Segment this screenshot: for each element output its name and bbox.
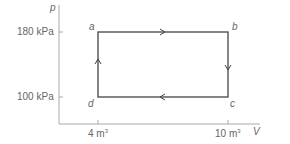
x-tick-label-10: 10 m3 <box>215 128 241 139</box>
cycle-path <box>98 32 228 97</box>
x-axis-label: V <box>253 127 260 137</box>
x-tick-label-4: 4 m3 <box>88 128 108 139</box>
point-label-d: d <box>88 99 94 109</box>
point-label-c: c <box>230 99 235 109</box>
y-axis-label: p <box>50 3 56 13</box>
pv-diagram <box>0 0 290 144</box>
y-tick-label-180: 180 kPa <box>17 27 54 37</box>
point-label-b: b <box>232 22 238 32</box>
y-tick-label-100: 100 kPa <box>17 92 54 102</box>
point-label-a: a <box>89 22 95 32</box>
